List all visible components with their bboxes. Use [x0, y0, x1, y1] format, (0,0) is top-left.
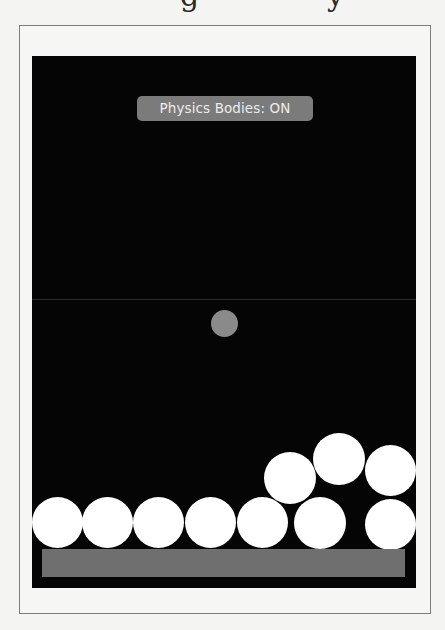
physics-ball: [32, 497, 83, 548]
physics-ball: [237, 497, 288, 548]
physics-bodies-toggle-label[interactable]: Physics Bodies: ON: [137, 96, 313, 121]
heading-glyph-fragment: g: [180, 0, 199, 13]
physics-ball: [365, 499, 416, 550]
physics-ball: [185, 497, 236, 548]
page-heading-fragment: gy: [0, 0, 445, 18]
physics-ball: [82, 497, 133, 548]
heading-glyph-fragment: y: [327, 0, 344, 13]
scene-divider-line: [32, 299, 416, 300]
physics-ball: [365, 445, 416, 496]
physics-ball: [264, 452, 316, 504]
falling-ball: [211, 310, 238, 337]
physics-ball: [313, 433, 365, 485]
game-scene[interactable]: Physics Bodies: ON: [32, 56, 416, 588]
physics-ball: [133, 497, 184, 548]
physics-ball: [294, 497, 346, 549]
ground-platform: [42, 549, 405, 577]
